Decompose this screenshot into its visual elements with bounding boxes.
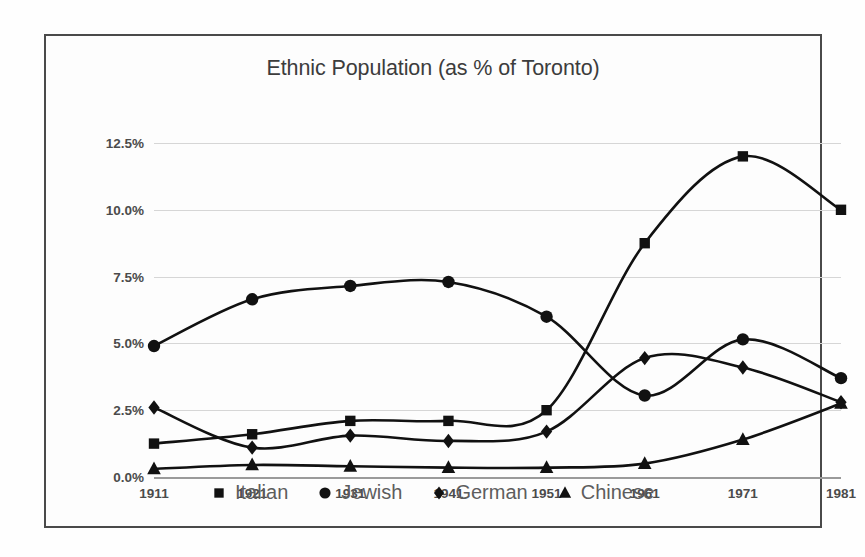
legend-item-italian[interactable]: Italian — [212, 481, 288, 504]
chart-legend: ItalianJewishGermanChinese — [46, 481, 820, 504]
data-point-german-1951[interactable] — [541, 424, 552, 438]
data-point-italian-1941[interactable] — [443, 416, 453, 426]
x-tick-label: 1981 — [826, 486, 856, 501]
data-point-german-1971[interactable] — [737, 360, 748, 374]
chart-page: Ethnic Population (as % of Toronto) 0.0%… — [0, 0, 865, 557]
data-point-italian-1911[interactable] — [149, 438, 159, 448]
data-point-german-1961[interactable] — [639, 351, 650, 365]
series-jewish — [148, 276, 847, 402]
data-point-jewish-1981[interactable] — [835, 372, 847, 384]
y-tick-label: 10.0% — [86, 202, 144, 217]
plot-area: 0.0%2.5%5.0%7.5%10.0%12.5% 1911192119311… — [154, 143, 841, 477]
legend-label: Chinese — [581, 481, 654, 504]
chart-title: Ethnic Population (as % of Toronto) — [46, 56, 820, 81]
diamond-marker-icon — [432, 486, 446, 500]
data-point-german-1911[interactable] — [148, 400, 159, 414]
data-point-jewish-1921[interactable] — [246, 293, 258, 305]
legend-label: Jewish — [341, 481, 402, 504]
series-plot — [154, 143, 841, 477]
data-point-german-1921[interactable] — [247, 440, 258, 454]
y-tick-label: 7.5% — [86, 269, 144, 284]
y-tick-label: 2.5% — [86, 403, 144, 418]
data-point-jewish-1951[interactable] — [540, 310, 552, 322]
data-point-italian-1981[interactable] — [836, 205, 846, 215]
data-point-jewish-1911[interactable] — [148, 340, 160, 352]
legend-item-chinese[interactable]: Chinese — [558, 481, 654, 504]
legend-item-jewish[interactable]: Jewish — [318, 481, 402, 504]
gridline-0-0pct — [154, 477, 841, 479]
y-tick-label: 5.0% — [86, 336, 144, 351]
data-point-italian-1971[interactable] — [738, 151, 748, 161]
data-point-italian-1931[interactable] — [345, 416, 355, 426]
square-marker-icon — [212, 486, 226, 500]
y-tick-label: 12.5% — [86, 136, 144, 151]
circle-marker-icon — [318, 486, 332, 500]
data-point-italian-1951[interactable] — [541, 405, 551, 415]
legend-label: German — [455, 481, 527, 504]
chart-frame: Ethnic Population (as % of Toronto) 0.0%… — [44, 34, 822, 528]
data-point-jewish-1961[interactable] — [639, 389, 651, 401]
legend-label: Italian — [235, 481, 288, 504]
data-point-italian-1961[interactable] — [640, 238, 650, 248]
data-point-german-1931[interactable] — [345, 428, 356, 442]
data-point-jewish-1941[interactable] — [442, 276, 454, 288]
legend-item-german[interactable]: German — [432, 481, 527, 504]
data-point-german-1941[interactable] — [443, 434, 454, 448]
data-point-jewish-1931[interactable] — [344, 280, 356, 292]
data-point-italian-1921[interactable] — [247, 429, 257, 439]
triangle-marker-icon — [558, 486, 572, 500]
data-point-jewish-1971[interactable] — [737, 333, 749, 345]
